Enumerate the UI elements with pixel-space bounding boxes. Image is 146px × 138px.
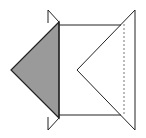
shaded-triangle: [11, 22, 59, 118]
right-triangle: [77, 10, 135, 130]
top-small-triangle: [48, 10, 59, 23]
bottom-small-triangle: [48, 117, 59, 130]
geometry-diagram: [0, 0, 146, 138]
